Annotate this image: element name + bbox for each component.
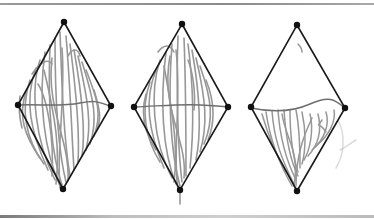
diamond-figure bbox=[0, 0, 374, 219]
vertex-dot-top bbox=[294, 22, 300, 28]
diamond-panel-right bbox=[248, 22, 356, 194]
vertex-dot-right bbox=[342, 105, 348, 111]
vertex-dot-left bbox=[131, 104, 137, 110]
diamond-panel-middle bbox=[131, 21, 231, 204]
vertex-dot-right bbox=[225, 104, 231, 110]
vertex-dot-bottom bbox=[60, 186, 66, 192]
vertex-dot-left bbox=[15, 102, 21, 108]
vertex-dot-right bbox=[108, 103, 114, 109]
vertex-dot-left bbox=[248, 104, 254, 110]
vertex-dot-top bbox=[61, 19, 67, 25]
scribble-strokes bbox=[262, 44, 356, 186]
midline bbox=[251, 99, 345, 111]
vertex-dot-top bbox=[179, 21, 185, 27]
vertex-dot-bottom bbox=[177, 187, 183, 193]
midline bbox=[134, 105, 228, 107]
vertex-dot-bottom bbox=[294, 188, 300, 194]
figure-frame bbox=[0, 0, 374, 219]
scribble-strokes bbox=[19, 32, 99, 188]
diamond-panel-left bbox=[15, 19, 114, 192]
